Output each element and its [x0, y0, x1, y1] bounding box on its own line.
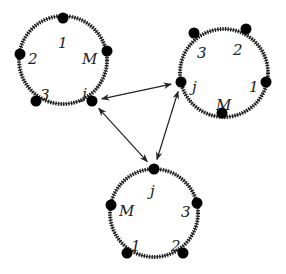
- node-1: [261, 77, 272, 88]
- link-arrow: [157, 92, 178, 160]
- node-label: 3: [40, 86, 50, 104]
- node-j: [176, 77, 187, 88]
- node-label: 2: [232, 41, 243, 59]
- node-2: [15, 49, 26, 60]
- node-j: [149, 164, 160, 175]
- node-label: M: [81, 50, 98, 68]
- node-3: [189, 28, 200, 39]
- node-label: j: [147, 182, 155, 200]
- node-label: j: [189, 78, 197, 96]
- ring-network-diagram: 12M3j321MjjM312: [0, 0, 286, 274]
- node-label: 3: [181, 203, 191, 221]
- node-label: 1: [131, 237, 141, 255]
- node-label: M: [118, 202, 135, 220]
- node-label: 2: [27, 50, 38, 68]
- link-arrow: [99, 108, 148, 161]
- node-m: [106, 200, 117, 211]
- node-label: 2: [170, 237, 181, 255]
- node-1: [58, 13, 69, 24]
- node-j: [87, 96, 98, 107]
- node-m: [102, 46, 113, 57]
- link-arrow: [102, 84, 171, 99]
- node-label: 1: [249, 78, 259, 96]
- node-2: [241, 24, 252, 35]
- node-label: 3: [197, 44, 207, 62]
- node-3: [192, 198, 203, 209]
- node-label: M: [215, 96, 232, 114]
- node-label: 1: [58, 34, 68, 52]
